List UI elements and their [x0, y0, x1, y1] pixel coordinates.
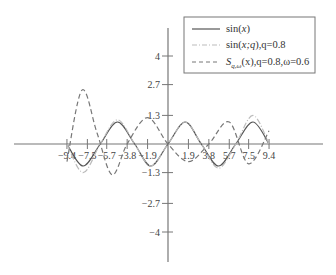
- legend-label-qsin: sin(x;q),q=0.8: [226, 39, 286, 51]
- y-tick-label: −4: [149, 227, 160, 238]
- y-tick-label: 4: [155, 51, 160, 62]
- y-tick-label: −2.7: [142, 198, 160, 209]
- x-tick-label: 9.4: [263, 150, 276, 161]
- legend: sin(x) sin(x;q),q=0.8 Sq,ω(x),q=0.8,ω=0.…: [184, 17, 315, 73]
- x-tick-label: −5.7: [98, 150, 116, 161]
- y-tick-label: 2.7: [148, 79, 161, 90]
- y-tick-label: −1.3: [142, 167, 160, 178]
- y-tick-label: 1.3: [148, 110, 161, 121]
- chart-canvas: −9.4−7.5−5.7−3.8−1.91.93.85.77.59.442.71…: [0, 0, 336, 275]
- x-tick-label: −7.5: [78, 150, 96, 161]
- legend-label-sin: sin(x): [226, 23, 250, 35]
- x-tick-label: −3.8: [118, 150, 136, 161]
- x-tick-label: 1.9: [182, 150, 195, 161]
